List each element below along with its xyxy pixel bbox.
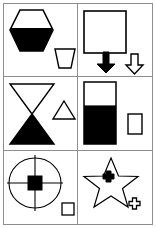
rectangle-half-filled: [83, 81, 117, 145]
cross-outline: [128, 197, 141, 210]
hexagon-half-filled: [9, 9, 54, 53]
square-outline: [83, 10, 127, 54]
circle-crosshair: [7, 155, 63, 211]
square-outline-small: [61, 202, 75, 216]
down-arrow-filled: [96, 52, 116, 74]
shape-figure-panel: [0, 0, 156, 228]
down-arrow-outline: [124, 53, 145, 75]
cell-2-square-arrows: [78, 4, 152, 77]
triangle-outline: [52, 100, 76, 120]
trapezoid-outline: [54, 48, 76, 70]
shape-grid: [3, 3, 153, 225]
hourglass-half-filled: [8, 83, 56, 145]
cell-5-circle-crosshair: [4, 151, 78, 224]
cell-3-hourglass: [4, 77, 78, 150]
cell-1-hexagon: [4, 4, 78, 77]
rectangle-outline: [127, 113, 143, 135]
cross-filled: [102, 170, 115, 183]
cell-6-star: [78, 151, 152, 224]
cell-4-rectangle: [78, 77, 152, 150]
